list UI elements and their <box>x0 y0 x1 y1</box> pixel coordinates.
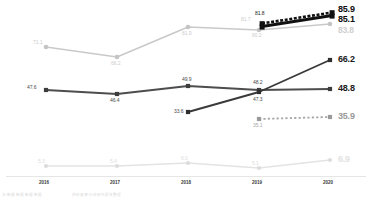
marker-lg-2016 <box>44 45 49 50</box>
marker-bold-lower-2019 <box>260 25 265 30</box>
marker-faint-2017 <box>115 164 119 168</box>
point-label-dark-2019: 48.2 <box>253 80 262 85</box>
footer-note-right: 资料来源:行业研究报告整理 <box>72 192 121 197</box>
marker-dark-2016 <box>44 88 48 92</box>
marker-rise-2019 <box>257 90 261 94</box>
marker-bold-lower-2020 <box>330 14 335 19</box>
point-label-lg-2019: 80.2 <box>252 33 261 38</box>
point-label-faint-2018: 6.0 <box>181 156 188 161</box>
marker-dark-2017 <box>115 92 119 96</box>
end-label-rising: 66.2 <box>338 55 355 64</box>
x-tick-2016: 2016 <box>39 180 49 185</box>
x-tick-2020: 2020 <box>323 180 333 185</box>
point-label-lg-2018: 81.9 <box>182 31 191 36</box>
marker-rise-2020 <box>328 58 332 62</box>
marker-dark-2018 <box>186 84 190 88</box>
marker-dot-2019 <box>257 117 261 121</box>
point-label-faint-2019: 5.1 <box>252 161 259 166</box>
line-series-gray-dotted <box>259 117 330 119</box>
x-tick-2018: 2018 <box>181 180 191 185</box>
point-label-faint-2017: 5.4 <box>110 159 117 164</box>
point-label-lg-2017: 66.2 <box>111 61 120 66</box>
marker-faint-2016 <box>44 164 48 168</box>
marker-dark-2020 <box>328 87 332 91</box>
end-label-second-bold: 85.1 <box>338 15 355 24</box>
point-label-bold-upper-2019: 81.8 <box>255 11 264 16</box>
point-label-dark-2017: 46.4 <box>110 98 119 103</box>
marker-faint-2020 <box>328 158 332 162</box>
marker-faint-2018 <box>186 161 190 165</box>
point-label-rise-2019: 47.3 <box>253 97 262 102</box>
point-label-faint-2016: 5.3 <box>38 159 45 164</box>
marker-faint-2019 <box>257 166 261 170</box>
point-label-dark-2018: 49.9 <box>182 77 191 82</box>
line-chart: 85.9 85.1 83.8 66.2 48.8 35.9 6.9 71.1 6… <box>0 0 372 199</box>
end-label-third-gray: 83.8 <box>338 26 354 35</box>
x-tick-2017: 2017 <box>110 180 120 185</box>
point-label-bold-lower-2019: 81.7 <box>241 17 250 22</box>
marker-dot-2020 <box>328 115 332 119</box>
point-label-dark-2016: 47.6 <box>27 85 36 90</box>
footer-note-left: 注:数据 数据 数据 数据 <box>2 192 42 197</box>
point-label-lg-2016: 71.1 <box>33 40 42 45</box>
marker-lg-2017 <box>115 55 120 60</box>
x-tick-2019: 2019 <box>252 180 262 185</box>
marker-lg-2018 <box>186 25 191 30</box>
end-label-top-bold: 85.9 <box>338 5 355 14</box>
point-label-rise-2018: 33.6 <box>174 109 183 114</box>
end-label-dotted: 35.9 <box>338 112 355 121</box>
end-label-flat: 48.8 <box>338 84 355 93</box>
end-label-bottom: 6.9 <box>338 155 350 164</box>
point-label-dot-2019: 35.1 <box>253 123 262 128</box>
marker-lg-2020 <box>328 22 333 27</box>
line-series-dark-rising <box>188 60 330 112</box>
marker-rise-2018 <box>186 110 190 114</box>
